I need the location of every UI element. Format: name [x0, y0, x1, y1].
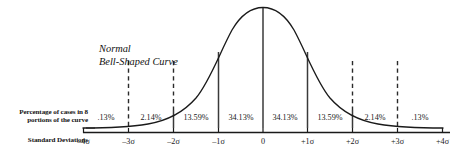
segment-percentage-2: 2.14%: [140, 113, 161, 122]
segment-percentage-4: 34.13%: [228, 113, 253, 122]
percentage-row-label: Percentage of cases in 8 portions of the…: [4, 108, 88, 125]
normal-distribution-figure: Normal Bell-Shaped Curve Percentage of c…: [0, 0, 455, 158]
x-tick-label-plus-3-sigma: +3σ: [391, 137, 404, 146]
standard-deviations-row-label: Standard Deviations: [4, 136, 88, 144]
segment-percentage-5: 34.13%: [272, 113, 297, 122]
curve-annotation-line-1: Normal: [99, 42, 178, 55]
curve-annotation-line-2: Bell-Shaped Curve: [99, 55, 178, 68]
segment-percentage-3: 13.59%: [183, 113, 208, 122]
x-tick-label-minus-4-sigma: –4σ: [77, 137, 90, 146]
segment-percentage-1: .13%: [97, 113, 114, 122]
x-tick-label-minus-3-sigma: –3σ: [122, 137, 135, 146]
x-tick-label-plus-2-sigma: +2σ: [346, 137, 359, 146]
segment-percentage-6: 13.59%: [317, 113, 342, 122]
x-tick-label-plus-4-sigma: +4σ: [436, 137, 449, 146]
bell-curve-graphic: [0, 0, 455, 158]
curve-annotation-label: Normal Bell-Shaped Curve: [99, 42, 178, 68]
x-tick-label-minus-1-sigma: –1σ: [212, 137, 225, 146]
x-tick-label-plus-1-sigma: +1σ: [301, 137, 314, 146]
segment-percentage-8: .13%: [411, 113, 428, 122]
x-tick-label-minus-2-sigma: –2σ: [167, 137, 180, 146]
segment-percentage-7: 2.14%: [364, 113, 385, 122]
x-tick-label-zero: 0: [261, 137, 265, 146]
